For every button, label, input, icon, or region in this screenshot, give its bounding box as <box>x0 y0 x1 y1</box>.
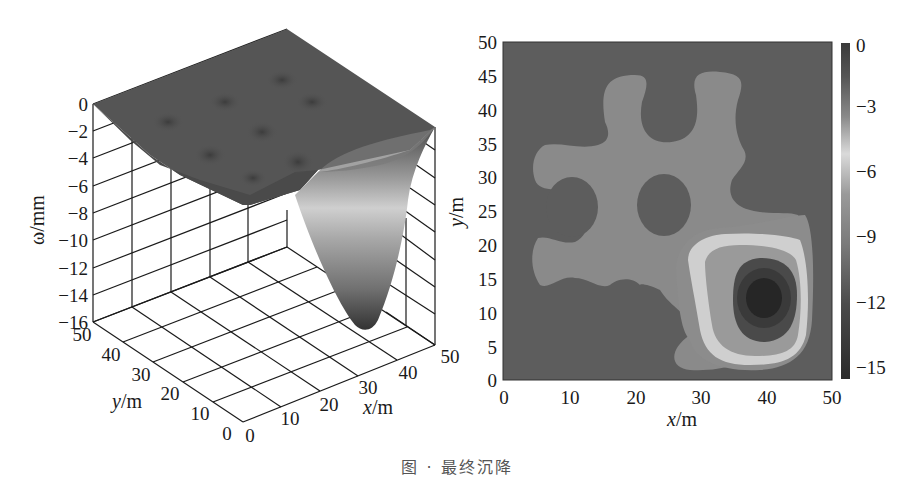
svg-text:−3: −3 <box>856 96 876 117</box>
svg-text:20: 20 <box>320 394 339 415</box>
colorbar-ticks: 0 −3 −6 −9 −12 −15 <box>856 35 886 378</box>
svg-text:50: 50 <box>478 32 497 53</box>
svg-text:−2: −2 <box>68 121 88 142</box>
contour-x-ticks: 0 10 20 30 40 50 <box>499 387 841 408</box>
svg-text:−8: −8 <box>68 203 88 224</box>
svg-text:20: 20 <box>627 387 646 408</box>
svg-text:30: 30 <box>692 387 711 408</box>
z-axis-label: ω/mm <box>26 195 48 245</box>
surface-plot-3d: 0 −2 −4 −6 −8 −10 −12 −14 −16 ω/mm 0 10 … <box>26 29 460 446</box>
svg-text:50: 50 <box>441 346 460 367</box>
svg-text:0: 0 <box>79 94 89 115</box>
svg-text:30: 30 <box>132 364 151 385</box>
svg-text:5: 5 <box>488 337 498 358</box>
contour-minimum <box>746 278 782 318</box>
svg-text:45: 45 <box>478 66 497 87</box>
svg-text:40: 40 <box>758 387 777 408</box>
colorbar <box>841 43 850 379</box>
svg-text:10: 10 <box>561 387 580 408</box>
y-axis-ticks: 0 10 20 30 40 50 <box>73 324 232 444</box>
contour-hole-1 <box>546 177 598 237</box>
svg-text:10: 10 <box>281 408 300 429</box>
svg-text:0: 0 <box>499 387 509 408</box>
svg-text:−12: −12 <box>58 258 88 279</box>
svg-text:40: 40 <box>478 100 497 121</box>
svg-text:−6: −6 <box>68 176 88 197</box>
svg-text:−4: −4 <box>68 148 89 169</box>
svg-text:25: 25 <box>478 201 497 222</box>
svg-text:40: 40 <box>102 344 121 365</box>
svg-text:20: 20 <box>161 383 180 404</box>
z-axis-ticks: 0 −2 −4 −6 −8 −10 −12 −14 −16 <box>58 94 88 333</box>
svg-text:50: 50 <box>823 387 842 408</box>
svg-text:10: 10 <box>478 303 497 324</box>
svg-text:0: 0 <box>245 425 255 446</box>
svg-text:−9: −9 <box>856 226 876 247</box>
svg-text:0: 0 <box>488 370 498 391</box>
svg-text:30: 30 <box>359 377 378 398</box>
x-axis-ticks: 0 10 20 30 40 50 <box>245 346 459 446</box>
contour-y-label: y/m <box>445 197 468 229</box>
svg-text:−10: −10 <box>58 230 88 251</box>
contour-hole-2 <box>637 174 691 236</box>
y-axis-label: y/m <box>110 390 142 413</box>
svg-text:−12: −12 <box>856 292 886 313</box>
x-axis-label: x/m <box>362 396 393 418</box>
svg-text:−14: −14 <box>58 285 88 306</box>
svg-text:35: 35 <box>478 134 497 155</box>
svg-text:50: 50 <box>73 324 92 345</box>
svg-text:20: 20 <box>478 235 497 256</box>
contour-x-label: x/m <box>666 408 697 430</box>
svg-text:0: 0 <box>856 35 866 56</box>
svg-text:15: 15 <box>478 269 497 290</box>
svg-text:10: 10 <box>191 403 210 424</box>
svg-text:30: 30 <box>478 167 497 188</box>
contour-y-ticks: 0 5 10 15 20 25 30 35 40 45 50 <box>478 32 497 391</box>
svg-text:0: 0 <box>222 423 232 444</box>
svg-text:−6: −6 <box>856 161 876 182</box>
contour-plot: 0 5 10 15 20 25 30 35 40 45 50 y/m 0 10 … <box>445 32 886 430</box>
svg-text:−15: −15 <box>856 357 886 378</box>
svg-text:40: 40 <box>399 362 418 383</box>
figure-caption: 图 · 最终沉降 <box>0 454 914 478</box>
